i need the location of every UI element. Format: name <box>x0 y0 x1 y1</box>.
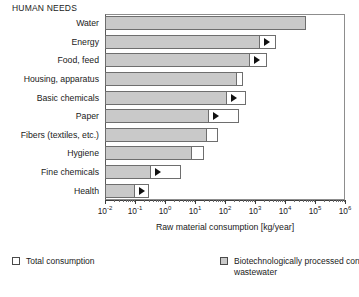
bar-group <box>105 91 345 105</box>
x-tick-minor <box>303 200 304 202</box>
bar-segment-biotech-processed <box>105 165 151 179</box>
category-label: Water <box>76 18 99 28</box>
arrow-marker-icon <box>213 112 219 120</box>
x-tick-minor <box>306 200 307 202</box>
bar-segment-biotech-processed <box>105 35 260 49</box>
bar-row: Food, feed100 <box>0 51 359 70</box>
x-tick-minor <box>179 200 180 202</box>
x-tick-label: 105 <box>309 206 322 216</box>
bar-segment-biotech-processed <box>105 109 209 123</box>
x-tick-minor <box>126 200 127 202</box>
x-tick-minor <box>224 200 225 202</box>
legend-item-total-consumption: Total consumption <box>12 256 95 267</box>
bar-segment-biotech-processed <box>105 146 192 160</box>
chart-container: HUMAN NEEDS WaterEnergy7Food, feed100Hou… <box>0 0 359 297</box>
legend-swatch-total-icon <box>12 257 20 265</box>
x-tick-minor <box>333 200 334 202</box>
bar-value-label: 10 <box>351 93 359 103</box>
bar-segment-total-consumption <box>191 146 204 160</box>
bar-group <box>105 184 345 198</box>
category-label: Hygiene <box>67 148 99 158</box>
category-label: Food, feed <box>57 55 99 65</box>
x-tick-label: 100 <box>159 206 172 216</box>
bar-row: Health <box>0 181 359 200</box>
x-tick-minor <box>194 200 195 202</box>
x-tick-minor <box>308 200 309 202</box>
legend-label-biotech: Biotechnologically processed consumption… <box>234 256 359 278</box>
bar-value-label: 7 <box>351 37 359 47</box>
bar-group <box>105 72 345 86</box>
x-tick-minor <box>186 200 187 202</box>
x-tick-minor <box>239 200 240 202</box>
bar-group <box>105 165 345 179</box>
x-tick-major <box>225 200 226 204</box>
bar-row: Basic chemicals10 <box>0 88 359 107</box>
x-tick-minor <box>164 200 165 202</box>
bar-value-label: 50 <box>351 130 359 140</box>
x-tick-minor <box>123 200 124 202</box>
x-tick-major <box>285 200 286 204</box>
bar-segment-biotech-processed <box>105 53 250 67</box>
x-tick-minor <box>269 200 270 202</box>
x-tick-minor <box>114 200 115 202</box>
bar-row: Paper100 <box>0 107 359 126</box>
bar-row: Fibers (textiles, etc.)50 <box>0 126 359 145</box>
arrow-marker-icon <box>264 38 270 46</box>
x-tick-minor <box>329 200 330 202</box>
bar-value-label: 100 <box>351 111 359 121</box>
arrow-marker-icon <box>231 94 237 102</box>
arrow-marker-icon <box>254 56 260 64</box>
bar-group <box>105 53 345 67</box>
x-tick-minor <box>248 200 249 202</box>
x-tick-minor <box>209 200 210 202</box>
bar-segment-total-consumption <box>206 128 218 142</box>
category-label: Basic chemicals <box>37 93 99 103</box>
x-tick-minor <box>344 200 345 202</box>
bar-value-label: 50 <box>351 74 359 84</box>
bar-segment-biotech-processed <box>105 72 237 86</box>
x-tick-minor <box>213 200 214 202</box>
category-label: Energy <box>71 37 99 47</box>
x-tick-minor <box>144 200 145 202</box>
x-tick-minor <box>264 200 265 202</box>
chart-title: HUMAN NEEDS <box>12 3 77 13</box>
x-tick-minor <box>204 200 205 202</box>
x-tick-label: 104 <box>279 206 292 216</box>
x-tick-minor <box>216 200 217 202</box>
bar-row: Energy7 <box>0 33 359 52</box>
bar-group <box>105 146 345 160</box>
bar-segment-total-consumption <box>236 72 243 86</box>
category-label: Health <box>74 186 99 196</box>
x-tick-major <box>195 200 196 204</box>
x-tick-major <box>135 200 136 204</box>
x-tick-minor <box>183 200 184 202</box>
x-tick-minor <box>336 200 337 202</box>
x-tick-minor <box>234 200 235 202</box>
x-tick-minor <box>174 200 175 202</box>
x-tick-major <box>345 200 346 204</box>
x-tick-minor <box>324 200 325 202</box>
x-tick-label: 101 <box>189 206 202 216</box>
x-tick-minor <box>338 200 339 202</box>
x-tick-major <box>315 200 316 204</box>
x-tick-label: 106 <box>339 206 352 216</box>
bar-row: Water <box>0 14 359 33</box>
category-label: Fibers (textiles, etc.) <box>21 130 99 140</box>
bar-row: Housing, apparatus50 <box>0 70 359 89</box>
bar-segment-biotech-processed <box>105 91 227 105</box>
x-tick-minor <box>188 200 189 202</box>
chart-legend: Total consumption Biotechnologically pro… <box>12 256 359 292</box>
bar-segment-biotech-processed <box>105 184 135 198</box>
x-tick-label: 102 <box>219 206 232 216</box>
bar-segment-biotech-processed <box>105 128 207 142</box>
x-tick-minor <box>128 200 129 202</box>
category-label: Housing, apparatus <box>24 74 99 84</box>
arrow-marker-icon <box>155 168 161 176</box>
x-tick-major <box>105 200 106 204</box>
x-tick-label: 103 <box>249 206 262 216</box>
x-axis: 10-210-1100101102103104105106 Raw materi… <box>105 200 345 240</box>
x-tick-minor <box>156 200 157 202</box>
x-tick-minor <box>134 200 135 202</box>
x-tick-minor <box>314 200 315 202</box>
legend-item-biotech-consumption: Biotechnologically processed consumption… <box>220 256 359 278</box>
